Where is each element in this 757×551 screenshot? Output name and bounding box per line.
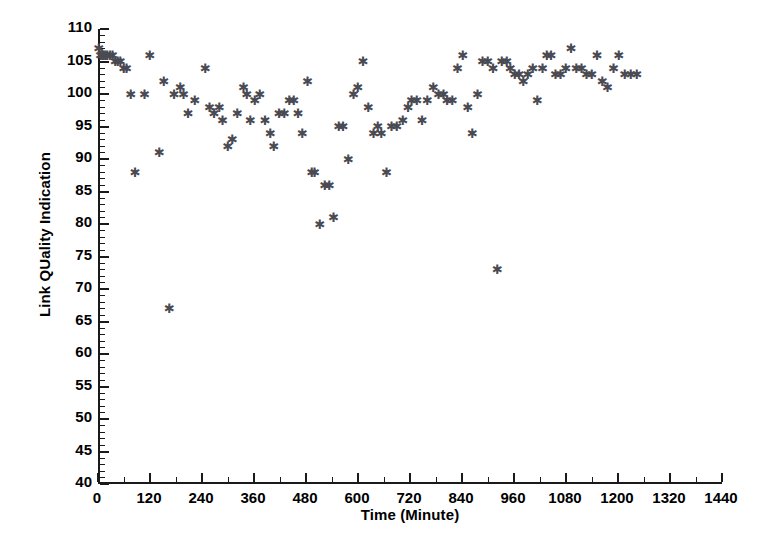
y-tick-label: 95 [52, 116, 92, 133]
y-tick: 45 [100, 451, 109, 453]
data-point [467, 128, 478, 139]
y-tick-minor [100, 211, 105, 212]
x-tick: 0 [97, 473, 99, 482]
x-tick-label: 0 [67, 489, 127, 506]
data-point [358, 56, 369, 67]
data-point [447, 95, 458, 106]
y-tick-minor [100, 100, 105, 101]
y-tick-minor [100, 139, 105, 140]
y-tick-minor [100, 172, 105, 173]
data-point [353, 82, 364, 93]
y-tick-minor [100, 295, 105, 296]
data-point [592, 50, 603, 61]
data-point [293, 108, 304, 119]
y-tick: 90 [100, 158, 109, 160]
plot-area: 404550556065707580859095100105110 012024… [98, 29, 722, 484]
y-tick-minor [100, 276, 105, 277]
x-tick: 1080 [565, 473, 567, 482]
data-point [381, 167, 392, 178]
x-tick: 240 [201, 473, 203, 482]
data-point [532, 95, 543, 106]
y-tick-minor [100, 380, 105, 381]
y-tick-minor [100, 269, 105, 270]
x-tick: 360 [253, 473, 255, 482]
data-point [190, 95, 201, 106]
data-point [338, 121, 349, 132]
x-tick-label: 840 [431, 489, 491, 506]
y-tick-minor [100, 74, 105, 75]
x-tick-label: 1080 [535, 489, 595, 506]
x-tick: 1200 [617, 473, 619, 482]
data-point [537, 63, 548, 74]
y-tick-minor [100, 198, 105, 199]
data-point [125, 89, 136, 100]
y-tick-minor [100, 237, 105, 238]
y-tick-label: 70 [52, 278, 92, 295]
data-point [255, 89, 266, 100]
data-point [200, 63, 211, 74]
x-axis-line [98, 482, 722, 484]
data-point [463, 102, 474, 113]
x-tick-minor [644, 477, 645, 482]
data-point [245, 115, 256, 126]
data-point [178, 89, 189, 100]
y-tick-minor [100, 185, 105, 186]
y-tick-minor [100, 432, 105, 433]
data-point [363, 102, 374, 113]
y-tick-minor [100, 146, 105, 147]
x-tick: 120 [149, 473, 151, 482]
y-tick: 70 [100, 288, 109, 290]
y-tick: 95 [100, 126, 109, 128]
y-tick-minor [100, 308, 105, 309]
data-point [472, 89, 483, 100]
x-tick: 720 [409, 473, 411, 482]
y-tick-minor [100, 471, 105, 472]
x-tick: 1440 [721, 473, 723, 482]
y-tick-minor [100, 68, 105, 69]
x-tick-label: 120 [119, 489, 179, 506]
y-tick: 55 [100, 386, 109, 388]
y-tick-minor [100, 302, 105, 303]
y-tick: 75 [100, 256, 109, 258]
y-tick-minor [100, 347, 105, 348]
x-tick-minor [540, 477, 541, 482]
x-tick-label: 960 [483, 489, 543, 506]
data-point [279, 108, 290, 119]
y-tick-minor [100, 87, 105, 88]
y-tick-minor [100, 165, 105, 166]
data-point [297, 128, 308, 139]
y-tick: 110 [100, 28, 109, 30]
x-tick-label: 360 [223, 489, 283, 506]
data-point [566, 43, 577, 54]
y-tick-minor [100, 334, 105, 335]
data-point [130, 167, 141, 178]
data-point [452, 63, 463, 74]
y-tick: 50 [100, 418, 109, 420]
y-tick-minor [100, 107, 105, 108]
y-tick-minor [100, 204, 105, 205]
y-tick-label: 105 [52, 51, 92, 68]
data-point [227, 134, 238, 145]
y-tick-label: 100 [52, 83, 92, 100]
y-tick-minor [100, 315, 105, 316]
y-tick-minor [100, 360, 105, 361]
y-tick-minor [100, 152, 105, 153]
data-point [268, 141, 279, 152]
x-tick-minor [592, 477, 593, 482]
x-axis-title: Time (Minute) [98, 506, 722, 523]
x-tick-label: 240 [171, 489, 231, 506]
x-tick-minor [384, 477, 385, 482]
y-tick-minor [100, 282, 105, 283]
y-tick-minor [100, 178, 105, 179]
y-tick-label: 50 [52, 408, 92, 425]
y-tick-minor [100, 406, 105, 407]
y-tick-minor [100, 438, 105, 439]
data-point [232, 108, 243, 119]
y-tick-minor [100, 328, 105, 329]
data-point [302, 76, 313, 87]
y-tick-minor [100, 243, 105, 244]
x-tick: 1320 [669, 473, 671, 482]
x-tick-minor [332, 477, 333, 482]
x-tick-label: 480 [275, 489, 335, 506]
x-tick-label: 1200 [587, 489, 647, 506]
